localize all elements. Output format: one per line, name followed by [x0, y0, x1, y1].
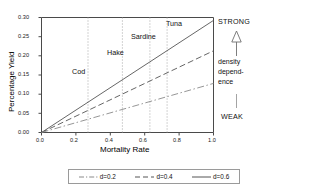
chart-figure: 0.30 0.25 0.20 0.15 0.10 0.05 0.00 0.0 0…	[0, 0, 310, 192]
chart-canvas	[0, 0, 310, 192]
y-axis-title: Percentage Yield	[7, 52, 16, 113]
legend-label-d02: d=0.2	[100, 173, 116, 180]
legend-entry-d04: d=0.4	[135, 173, 172, 180]
y-tick-label: 0.25	[18, 33, 29, 39]
x-tick-label: 0.2	[70, 137, 78, 143]
x-tick-label: 0.0	[36, 137, 44, 143]
y-tick-label: 0.05	[18, 110, 29, 116]
annotation-sardine: Sardine	[131, 32, 156, 41]
density-dependence-line-3: ence	[218, 78, 233, 85]
x-tick-label: 1.0	[208, 137, 216, 143]
series-line-d06	[42, 20, 214, 132]
strong-label: STRONG	[218, 17, 250, 26]
x-tick-label: 0.8	[173, 137, 181, 143]
series-line-d02	[42, 83, 214, 132]
legend-label-d06: d=0.6	[213, 173, 229, 180]
weak-label: WEAK	[221, 112, 243, 121]
y-tick-label: 0.15	[18, 71, 29, 77]
y-tick-label: 0.00	[18, 129, 29, 135]
x-tick-label: 0.4	[105, 137, 113, 143]
legend-entry-d02: d=0.2	[79, 173, 116, 180]
dashed-line-swatch	[135, 174, 154, 180]
y-tick-label: 0.30	[18, 14, 29, 20]
series-line-d04	[42, 51, 214, 133]
density-dependence-line-1: density	[218, 58, 240, 65]
y-tick-label: 0.10	[18, 90, 29, 96]
density-dependence-line-2: depend-	[218, 68, 244, 75]
legend-entry-d06: d=0.6	[192, 173, 229, 180]
chart-legend: d=0.2 d=0.4 d=0.6	[68, 169, 240, 184]
y-tick-label: 0.20	[18, 52, 29, 58]
dashdot-line-swatch	[79, 174, 98, 180]
annotation-cod: Cod	[72, 67, 85, 76]
annotation-hake: Hake	[107, 48, 124, 57]
x-axis-title: Mortality Rate	[100, 145, 149, 154]
x-tick-label: 0.6	[139, 137, 147, 143]
annotation-tuna: Tuna	[166, 19, 182, 28]
solid-line-swatch	[192, 174, 211, 180]
legend-label-d04: d=0.4	[156, 173, 172, 180]
